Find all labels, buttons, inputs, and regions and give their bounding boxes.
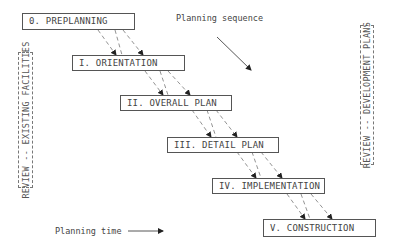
flow-line-0-1: [115, 30, 122, 55]
connector-layer: [0, 0, 393, 252]
phase-box-construction: V. CONSTRUCTION: [263, 219, 376, 237]
phase-box-detail-plan: III. DETAIL PLAN: [167, 137, 279, 153]
planning-time-label: Planning time: [55, 226, 122, 236]
review-existing-facilities-label: REVIEW -- EXISTING FACILITIES: [21, 41, 31, 198]
phase-label: 0. PREPLANNING: [29, 16, 108, 26]
phase-label: IV. IMPLEMENTATION: [219, 181, 320, 191]
review-development-plans-label: REVIEW -- DEVELOPMENT PLANS: [362, 22, 372, 168]
phase-label: I. ORIENTATION: [79, 58, 158, 68]
phase-box-overall-plan: II. OVERALL PLAN: [120, 95, 232, 111]
review-development-plans-box: REVIEW -- DEVELOPMENT PLANS: [360, 25, 374, 165]
flow-arrow-0-1b: [123, 30, 143, 55]
flow-arrow-0-1a: [98, 30, 116, 55]
phase-label: V. CONSTRUCTION: [270, 223, 354, 233]
phase-box-preplanning: 0. PREPLANNING: [22, 13, 135, 30]
review-existing-facilities-box: REVIEW -- EXISTING FACILITIES: [18, 52, 33, 188]
phase-label: III. DETAIL PLAN: [174, 140, 264, 150]
phase-box-orientation: I. ORIENTATION: [72, 55, 185, 71]
planning-diagram: 0. PREPLANNING I. ORIENTATION II. OVERAL…: [0, 0, 393, 252]
sequence-arrow: [217, 37, 251, 70]
planning-sequence-label: Planning sequence: [176, 13, 263, 23]
phase-label: II. OVERALL PLAN: [127, 98, 217, 108]
phase-box-implementation: IV. IMPLEMENTATION: [212, 178, 325, 194]
